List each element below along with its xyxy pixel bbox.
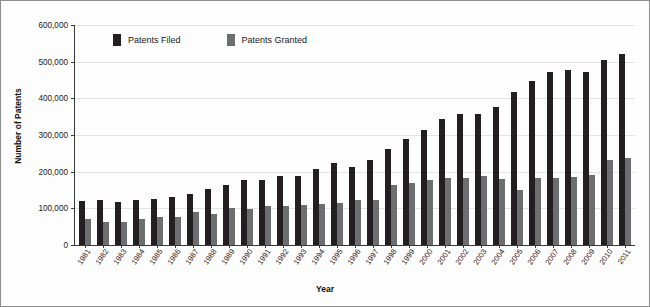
legend-swatch-filed-icon [113,34,121,46]
x-axis-tick-label-cell: 1993 [291,248,309,282]
x-axis-tick-label: 2007 [543,247,560,266]
x-axis-tick-label: 2001 [435,247,452,266]
x-axis-tick-label: 2006 [525,247,542,266]
x-axis-tick-label: 1988 [201,247,218,266]
x-axis-tick-label: 1991 [255,247,272,266]
bar-group [310,25,328,245]
bar-group [580,25,598,245]
x-axis-tick-label: 1992 [273,247,290,266]
bar-patents-granted [607,160,613,245]
y-axis-title-text: Number of Patents [13,88,23,164]
bar-patents-granted [589,175,595,245]
bar-group [94,25,112,245]
bar-patents-granted [157,217,163,245]
bar-patents-granted [85,219,91,245]
y-axis-tick-label: 100,000 [38,204,68,213]
x-axis-tick-label-cell: 1999 [399,248,417,282]
y-axis-tick-label: 300,000 [38,131,68,140]
bar-patents-granted [427,180,433,245]
x-axis-tick-label: 2008 [561,247,578,266]
bar-group [382,25,400,245]
x-axis-tick-label-cell: 1998 [381,248,399,282]
bar-patents-granted [373,200,379,245]
bar-group [472,25,490,245]
x-axis-tick-label-cell: 2000 [417,248,435,282]
x-axis-tick-label-cell: 1985 [147,248,165,282]
bar-series-container [75,25,635,245]
bar-patents-granted [553,178,559,245]
x-axis-tick-label-cell: 1994 [309,248,327,282]
x-axis-tick-label-cell: 1981 [75,248,93,282]
bar-patents-granted [481,176,487,245]
x-axis-tick-label: 1989 [219,247,236,266]
bar-group [328,25,346,245]
x-axis-tick-label-cell: 2011 [615,248,633,282]
x-axis-tick-label: 2004 [489,247,506,266]
bar-group [490,25,508,245]
x-axis-title-text: Year [316,284,334,294]
bar-group [148,25,166,245]
y-axis-tick-label: 200,000 [38,167,68,176]
x-axis-tick-label: 1986 [165,247,182,266]
x-axis-tick-label-cell: 1991 [255,248,273,282]
x-axis-tick-labels: 1981198219831984198519861987198819891990… [74,248,634,282]
x-axis-tick-label: 1984 [129,247,146,266]
bar-group [616,25,634,245]
x-axis-tick-label-cell: 2006 [525,248,543,282]
bar-patents-granted [229,208,235,245]
x-axis-tick-label: 2009 [579,247,596,266]
x-axis-title: Year [1,284,649,294]
plot-area: 600,000500,000400,000300,000200,000100,0… [74,25,635,246]
x-axis-tick-label: 1987 [183,247,200,266]
bar-group [544,25,562,245]
bar-group [220,25,238,245]
x-axis-tick-label-cell: 2007 [543,248,561,282]
x-axis-tick-label: 2005 [507,247,524,266]
bar-group [364,25,382,245]
x-axis-tick-label-cell: 2008 [561,248,579,282]
bar-group [454,25,472,245]
x-axis-tick-label: 2003 [471,247,488,266]
legend-label-filed: Patents Filed [128,35,181,45]
x-axis-tick-label-cell: 1983 [111,248,129,282]
x-axis-tick-label: 1993 [291,247,308,266]
bar-patents-granted [571,177,577,245]
bar-patents-granted [211,214,217,245]
bar-patents-granted [463,178,469,245]
bar-patents-granted [283,206,289,245]
x-axis-tick-label: 1985 [147,247,164,266]
x-axis-tick-label: 2002 [453,247,470,266]
legend-label-granted: Patents Granted [242,35,308,45]
bar-group [508,25,526,245]
legend-item-granted: Patents Granted [227,34,308,46]
x-axis-tick-label-cell: 1996 [345,248,363,282]
x-axis-tick-label: 1981 [75,247,92,266]
x-axis-tick-label-cell: 1992 [273,248,291,282]
x-axis-tick-label-cell: 2004 [489,248,507,282]
y-axis-tick-label: 500,000 [38,57,68,66]
bar-patents-granted [175,217,181,245]
bar-group [526,25,544,245]
x-axis-tick-label-cell: 1984 [129,248,147,282]
legend-item-filed: Patents Filed [113,34,181,46]
y-axis-tick-mark [71,245,75,246]
x-axis-tick-label-cell: 1988 [201,248,219,282]
bar-group [292,25,310,245]
x-axis-tick-label-cell: 1989 [219,248,237,282]
bar-group [256,25,274,245]
x-axis-tick-label-cell: 1995 [327,248,345,282]
y-axis-tick-label: 400,000 [38,94,68,103]
bar-patents-granted [121,222,127,245]
x-axis-tick-label: 1995 [327,247,344,266]
bar-group [166,25,184,245]
x-axis-tick-label-cell: 2002 [453,248,471,282]
bar-group [274,25,292,245]
x-axis-tick-label-cell: 2003 [471,248,489,282]
x-axis-tick-label-cell: 1987 [183,248,201,282]
legend-swatch-granted-icon [227,34,235,46]
bar-patents-granted [409,183,415,245]
bar-group [238,25,256,245]
x-axis-tick-label-cell: 1997 [363,248,381,282]
x-axis-tick-label-cell: 2001 [435,248,453,282]
x-axis-tick-label: 1990 [237,247,254,266]
